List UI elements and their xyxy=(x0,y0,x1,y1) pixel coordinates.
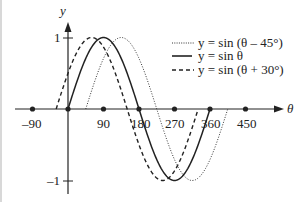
x-tick-label: 450 xyxy=(237,116,257,131)
x-tick-label: 90 xyxy=(97,116,110,131)
y-tick-label-minus1: –1 xyxy=(46,173,60,188)
y-axis-label: y xyxy=(58,3,66,18)
x-tick-label: –90 xyxy=(21,116,42,131)
sine-chart: y θ 1 –1 –90 90 180 270 360 450 y = sin … xyxy=(0,0,297,202)
y-axis-arrow-icon xyxy=(65,22,72,32)
legend: y = sin (θ – 45°) y = sin θ y = sin (θ +… xyxy=(172,35,284,77)
x-tick-dot xyxy=(101,106,106,111)
x-tick-label: 270 xyxy=(165,116,185,131)
x-axis-arrow-icon xyxy=(274,106,284,113)
y-tick-label-1: 1 xyxy=(54,30,61,45)
x-tick-dot xyxy=(172,106,177,111)
x-tick-label: 360 xyxy=(201,116,221,131)
x-tick-label: 180 xyxy=(131,116,151,131)
legend-label: y = sin θ xyxy=(198,48,243,63)
x-axis-label: θ xyxy=(287,101,294,116)
x-tick-dot xyxy=(243,106,248,111)
legend-label: y = sin (θ + 30°) xyxy=(198,62,284,77)
x-tick-dot xyxy=(30,106,35,111)
